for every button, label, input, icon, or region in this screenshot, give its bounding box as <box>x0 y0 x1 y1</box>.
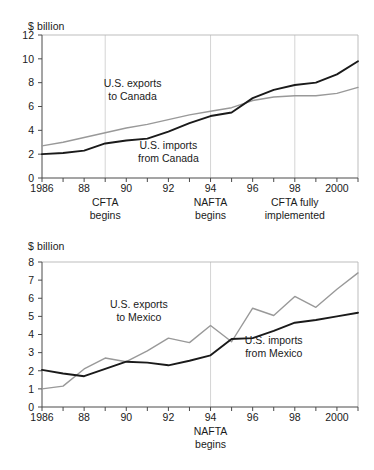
y-tick-label: 10 <box>22 53 34 65</box>
y-tick-label: 7 <box>28 274 34 286</box>
x-tick-label: 92 <box>163 182 175 194</box>
x-tick-label: 98 <box>289 182 301 194</box>
y-tick-label: 4 <box>28 124 34 136</box>
series-line-u-s-exports-to-canada <box>42 87 358 145</box>
event-label-line2-1989: begins <box>90 209 121 221</box>
series-annotation-line2: to Canada <box>108 90 157 102</box>
x-tick-label: 88 <box>78 182 90 194</box>
y-tick-label: 4 <box>28 328 34 340</box>
x-tick-label: 2000 <box>325 411 349 423</box>
x-tick-label: 90 <box>120 411 132 423</box>
plot-area-canada: 02468101219868890929496982000U.S. export… <box>0 0 374 235</box>
x-tick-label: 96 <box>247 411 259 423</box>
x-tick-label: 94 <box>205 411 217 423</box>
x-tick-label: 90 <box>120 182 132 194</box>
chart-panel-canada: $ billion 02468101219868890929496982000U… <box>0 0 374 235</box>
series-line-u-s-exports-to-mexico <box>42 273 358 389</box>
series-line-u-s-imports-from-canada <box>42 61 358 154</box>
x-tick-label: 92 <box>163 411 175 423</box>
plot-area-mexico: 01234567819868890929496982000U.S. export… <box>0 235 374 470</box>
x-tick-label: 94 <box>205 182 217 194</box>
series-annotation-line2: to Mexico <box>116 311 161 323</box>
y-tick-label: 5 <box>28 310 34 322</box>
y-tick-label: 6 <box>28 292 34 304</box>
series-annotation-line1: U.S. exports <box>104 77 162 89</box>
y-tick-label: 8 <box>28 256 34 268</box>
y-tick-label: 6 <box>28 100 34 112</box>
x-tick-label: 96 <box>247 182 259 194</box>
x-tick-label: 98 <box>289 411 301 423</box>
event-label-line2-1994: begins <box>195 438 226 450</box>
y-tick-label: 3 <box>28 346 34 358</box>
series-annotation-line2: from Canada <box>138 152 199 164</box>
event-label-line1-1998: CFTA fully <box>271 196 319 208</box>
event-label-line2-1998: implemented <box>265 209 325 221</box>
y-tick-label: 12 <box>22 29 34 41</box>
x-tick-label: 1986 <box>30 411 54 423</box>
series-annotation-line1: U.S. exports <box>110 298 168 310</box>
y-tick-label: 2 <box>28 148 34 160</box>
x-tick-label: 88 <box>78 411 90 423</box>
event-label-line1-1994: NAFTA <box>194 196 228 208</box>
y-tick-label: 1 <box>28 383 34 395</box>
x-tick-label: 1986 <box>30 182 54 194</box>
series-annotation-line2: from Mexico <box>245 347 302 359</box>
event-label-line1-1994: NAFTA <box>194 425 228 437</box>
series-annotation-line1: U.S. imports <box>140 139 198 151</box>
y-tick-label: 8 <box>28 76 34 88</box>
series-annotation-line1: U.S. imports <box>245 334 303 346</box>
event-label-line2-1994: begins <box>195 209 226 221</box>
figure-container: $ billion 02468101219868890929496982000U… <box>0 0 374 470</box>
x-tick-label: 2000 <box>325 182 349 194</box>
chart-panel-mexico: $ billion 01234567819868890929496982000U… <box>0 235 374 470</box>
y-tick-label: 2 <box>28 365 34 377</box>
event-label-line1-1989: CFTA <box>92 196 119 208</box>
